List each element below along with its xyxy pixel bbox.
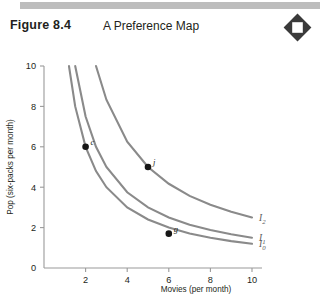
data-point-j	[145, 164, 152, 171]
indifference-curve-i1	[75, 66, 252, 238]
data-point-label-g: g	[174, 224, 178, 234]
curve-labels: I0I1I2	[258, 213, 266, 251]
data-point-label-j: j	[152, 157, 156, 167]
y-tick-label: 6	[31, 142, 36, 152]
data-point-c	[82, 144, 89, 151]
curve-label-i2: I2	[258, 213, 266, 225]
x-tick-label: 10	[247, 275, 257, 285]
preference-map-chart: 0246810246810 cjg I0I1I2 Pop (six-packs …	[0, 46, 328, 296]
x-tick-label: 6	[166, 275, 171, 285]
diamond-square-icon	[283, 13, 312, 42]
x-tick-label: 8	[208, 275, 213, 285]
header-rule	[20, 2, 320, 9]
page-title: A Preference Map	[103, 19, 199, 33]
y-tick-label: 0	[31, 263, 36, 273]
indifference-curve-i2	[96, 66, 252, 218]
x-axis-label: Movies (per month)	[161, 285, 232, 294]
y-tick-label: 8	[31, 102, 36, 112]
y-tick-label: 2	[31, 223, 36, 233]
data-point-label-c: c	[91, 137, 95, 147]
data-point-g	[166, 230, 173, 237]
figure-number: Figure 8.4	[10, 18, 71, 32]
x-tick-label: 2	[83, 275, 88, 285]
x-tick-label: 4	[125, 275, 130, 285]
y-tick-label: 4	[31, 183, 36, 193]
chart-axes	[44, 66, 262, 268]
indifference-curve-i0	[69, 66, 252, 244]
chart-ticks: 0246810246810	[26, 61, 257, 285]
y-tick-label: 10	[26, 61, 36, 71]
indifference-curves	[69, 66, 252, 244]
chart-points: cjg	[82, 137, 178, 237]
y-axis-label: Pop (six-packs per month)	[6, 119, 15, 215]
